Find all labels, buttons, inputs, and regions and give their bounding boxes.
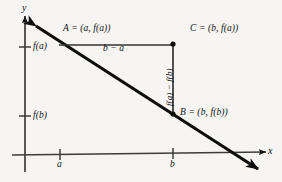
- point-B-dot: [170, 111, 175, 116]
- rise-segment-label: f(a) − f(b): [165, 68, 174, 106]
- point-label-A: A = (a, f(a)): [63, 24, 111, 34]
- point-label-B: B = (b, f(b)): [180, 108, 228, 118]
- point-C-dot: [170, 41, 175, 46]
- point-label-C: C = (b, f(a)): [190, 24, 238, 34]
- x-axis-label: x: [268, 146, 273, 156]
- y-tick-label-f-of-b: f(b): [33, 111, 47, 121]
- y-tick-label-f-of-a: f(a): [33, 42, 47, 52]
- run-segment-label: b − a: [103, 44, 124, 54]
- x-tick-label-a: a: [57, 160, 62, 170]
- secant-line: [36, 26, 258, 169]
- x-axis: [12, 152, 266, 155]
- x-tick-label-b: b: [170, 160, 175, 170]
- figure-root: y x f(a) f(b) a b A = (a, f(a)) C = (b, …: [0, 0, 282, 182]
- y-axis-label: y: [22, 3, 27, 13]
- diagram-canvas: [0, 0, 282, 182]
